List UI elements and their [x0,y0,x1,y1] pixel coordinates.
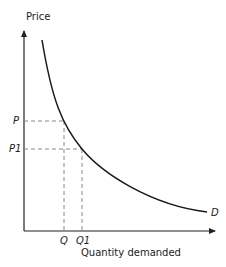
demand-curve [42,40,207,212]
y-axis-label: Price [26,12,50,22]
quantity-q-label: Q [60,236,68,246]
curve-d-label: D [211,208,219,218]
price-p-label: P [13,116,19,126]
x-axis-label: Quantity demanded [81,248,181,258]
price-p1-label: P1 [9,144,21,154]
quantity-q1-label: Q1 [76,236,90,246]
demand-chart [0,0,226,267]
